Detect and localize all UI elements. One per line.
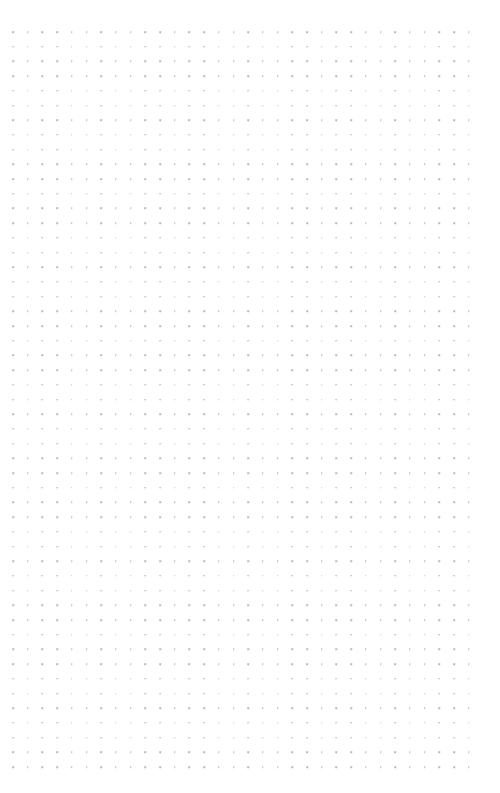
grid-dot xyxy=(27,502,29,504)
grid-dot xyxy=(71,546,73,548)
grid-dot xyxy=(130,575,132,577)
grid-dot xyxy=(100,487,102,489)
grid-dot xyxy=(71,31,73,33)
grid-dot xyxy=(145,487,147,489)
grid-dot xyxy=(233,737,235,739)
grid-dot xyxy=(277,472,279,474)
grid-dot xyxy=(56,590,58,592)
grid-dot xyxy=(380,752,382,754)
grid-dot xyxy=(130,340,132,342)
grid-dot xyxy=(365,46,367,48)
grid-dot xyxy=(262,487,264,489)
grid-dot xyxy=(262,663,264,665)
grid-dot xyxy=(189,546,191,548)
grid-dot xyxy=(145,325,147,327)
grid-dot xyxy=(321,61,323,63)
grid-dot xyxy=(262,531,264,533)
grid-dot xyxy=(380,281,382,283)
grid-dot xyxy=(453,619,455,621)
grid-dot xyxy=(86,31,88,33)
grid-dot xyxy=(145,193,147,195)
grid-dot xyxy=(380,105,382,107)
grid-dot xyxy=(453,31,455,33)
grid-dot xyxy=(453,296,455,298)
grid-dot xyxy=(453,766,455,768)
grid-dot xyxy=(42,266,44,268)
dot-grid-surface[interactable] xyxy=(0,0,500,793)
grid-dot xyxy=(394,61,396,63)
grid-dot xyxy=(174,413,176,415)
grid-dot xyxy=(336,325,338,327)
grid-dot xyxy=(424,516,426,518)
grid-dot xyxy=(439,237,441,239)
grid-dot xyxy=(321,266,323,268)
grid-dot xyxy=(71,252,73,254)
grid-dot xyxy=(159,31,161,33)
grid-dot xyxy=(453,75,455,77)
grid-dot xyxy=(115,355,117,357)
grid-dot xyxy=(409,546,411,548)
grid-dot xyxy=(159,590,161,592)
grid-dot xyxy=(174,487,176,489)
grid-dot xyxy=(71,384,73,386)
grid-dot xyxy=(71,399,73,401)
grid-dot xyxy=(424,605,426,607)
grid-dot xyxy=(262,208,264,210)
grid-dot xyxy=(336,61,338,63)
grid-dot xyxy=(394,222,396,224)
grid-dot xyxy=(350,502,352,504)
grid-dot xyxy=(468,502,470,504)
grid-dot xyxy=(56,296,58,298)
grid-dot xyxy=(27,384,29,386)
grid-dot xyxy=(189,516,191,518)
grid-dot xyxy=(350,428,352,430)
grid-dot xyxy=(247,399,249,401)
grid-dot xyxy=(233,531,235,533)
grid-dot xyxy=(203,178,205,180)
grid-dot xyxy=(145,340,147,342)
grid-dot xyxy=(409,222,411,224)
grid-dot xyxy=(336,281,338,283)
grid-dot xyxy=(71,443,73,445)
grid-dot xyxy=(233,31,235,33)
grid-dot xyxy=(130,75,132,77)
grid-dot xyxy=(247,458,249,460)
grid-dot xyxy=(380,575,382,577)
grid-dot xyxy=(380,296,382,298)
grid-dot xyxy=(42,428,44,430)
grid-dot xyxy=(12,119,14,121)
grid-dot xyxy=(71,737,73,739)
grid-dot xyxy=(130,722,132,724)
grid-dot xyxy=(277,752,279,754)
grid-dot xyxy=(247,222,249,224)
grid-dot xyxy=(130,105,132,107)
grid-dot xyxy=(424,193,426,195)
grid-dot xyxy=(394,546,396,548)
grid-dot xyxy=(409,355,411,357)
grid-dot xyxy=(439,546,441,548)
grid-dot xyxy=(130,384,132,386)
grid-dot xyxy=(468,428,470,430)
grid-dot xyxy=(394,134,396,136)
grid-dot xyxy=(27,134,29,136)
grid-dot xyxy=(277,560,279,562)
grid-dot xyxy=(365,90,367,92)
grid-dot xyxy=(365,766,367,768)
grid-dot xyxy=(27,31,29,33)
grid-dot xyxy=(394,399,396,401)
grid-dot xyxy=(468,516,470,518)
grid-dot xyxy=(174,164,176,166)
grid-dot xyxy=(159,193,161,195)
grid-dot xyxy=(203,707,205,709)
grid-dot xyxy=(277,766,279,768)
grid-dot xyxy=(306,164,308,166)
grid-dot xyxy=(277,369,279,371)
grid-dot xyxy=(233,193,235,195)
grid-dot xyxy=(453,590,455,592)
grid-dot xyxy=(233,399,235,401)
grid-dot xyxy=(56,472,58,474)
grid-dot xyxy=(336,75,338,77)
grid-dot xyxy=(394,237,396,239)
grid-dot xyxy=(409,472,411,474)
grid-dot xyxy=(86,413,88,415)
